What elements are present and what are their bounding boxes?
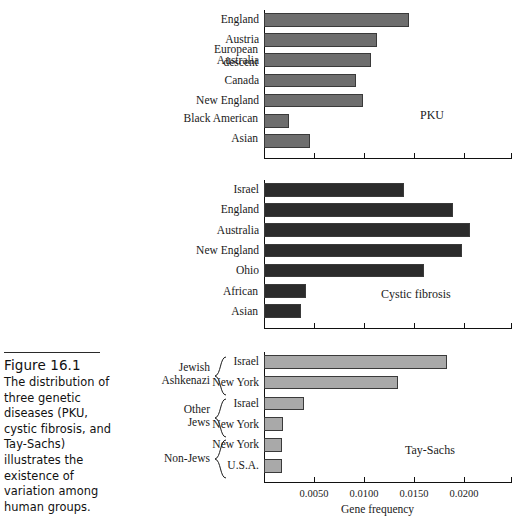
bar-category-label: England [59, 13, 259, 25]
brace-non-jews [214, 439, 227, 479]
axis-tick [414, 323, 415, 328]
bar [264, 134, 310, 148]
bar [264, 203, 453, 217]
bar-category-label: Australia [59, 224, 259, 236]
value-axis-horizontal [264, 482, 512, 483]
bar [264, 74, 356, 88]
figure-page: Figure 16.1 The distribution of three ge… [0, 0, 512, 517]
bar [264, 438, 282, 452]
bar [264, 459, 282, 473]
group-label-jewish-line1: Jewish [10, 361, 210, 374]
axis-tick [464, 153, 465, 158]
brace-jewish-ashkenazi [214, 356, 227, 396]
group-label-african: African [28, 285, 258, 298]
bar [264, 13, 409, 27]
axis-tick [364, 477, 365, 482]
bar [264, 183, 404, 197]
bar [264, 284, 306, 298]
axis-tick [414, 477, 415, 482]
bar-category-label: New York [59, 438, 259, 450]
panel-disease-label: Cystic fibrosis [381, 287, 451, 302]
axis-tick [364, 153, 365, 158]
panel-disease-label: PKU [420, 108, 444, 123]
panel-disease-label: Tay-Sachs [405, 443, 455, 458]
axis-tick-label: 0.0200 [434, 488, 494, 499]
caption-divider [4, 352, 100, 353]
bar-category-label: New England [59, 94, 259, 106]
bar [264, 397, 304, 411]
axis-tick [314, 477, 315, 482]
bar [264, 33, 377, 47]
value-axis-horizontal [264, 158, 512, 159]
group-label-asian: Asian [28, 132, 258, 145]
axis-tick [364, 323, 365, 328]
group-label-european-line1: European [28, 43, 258, 56]
bar-category-label: Israel [59, 183, 259, 195]
axis-title: Gene frequency [341, 503, 414, 515]
group-label-non-jews: Non-Jews [10, 452, 210, 465]
bar [264, 53, 371, 67]
bar [264, 94, 363, 108]
axis-tick [414, 153, 415, 158]
bar-category-label: New England [59, 244, 259, 256]
axis-tick [464, 477, 465, 482]
group-label-jewish-line2: Ashkenazi [10, 374, 210, 387]
bar [264, 417, 283, 431]
group-label-asian: Asian [28, 305, 258, 318]
group-label-black-american: Black American [28, 112, 258, 125]
axis-tick [314, 153, 315, 158]
bar [264, 304, 301, 318]
group-label-european-line2: descent [28, 56, 258, 69]
bar-category-label: Ohio [59, 264, 259, 276]
bar [264, 376, 398, 390]
bar [264, 223, 470, 237]
group-label-other-jews-line1: Other [10, 403, 210, 416]
value-axis-horizontal [264, 328, 512, 329]
bar-category-label: England [59, 203, 259, 215]
bar [264, 114, 289, 128]
bar-category-label: Canada [59, 74, 259, 86]
bar [264, 355, 447, 369]
brace-other-jews [214, 398, 227, 438]
group-label-other-jews-line2: Jews [10, 416, 210, 429]
bar [264, 244, 462, 258]
axis-tick [464, 323, 465, 328]
bar [264, 264, 424, 278]
axis-tick [314, 323, 315, 328]
